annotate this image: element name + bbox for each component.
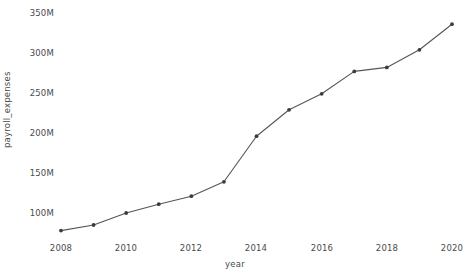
data-point — [320, 92, 324, 96]
y-tick-label-200m: 200M — [16, 128, 54, 138]
data-point — [287, 108, 291, 112]
x-tick-label-2010: 2010 — [115, 243, 137, 253]
y-axis-title: payroll_expenses — [2, 71, 12, 148]
data-point — [418, 48, 422, 52]
y-tick-label-100m: 100M — [16, 208, 54, 218]
y-tick-label-300m: 300M — [16, 48, 54, 58]
data-point — [450, 22, 454, 26]
x-tick-label-2014: 2014 — [245, 243, 267, 253]
y-tick-label-150m: 150M — [16, 168, 54, 178]
data-point — [157, 202, 161, 206]
x-tick-label-2012: 2012 — [180, 243, 202, 253]
data-point — [92, 223, 96, 227]
x-tick-label-2008: 2008 — [50, 243, 72, 253]
data-point — [255, 134, 259, 138]
y-tick-label-250m: 250M — [16, 88, 54, 98]
data-point — [352, 70, 356, 74]
data-point — [59, 229, 63, 233]
data-point — [189, 194, 193, 198]
data-point — [385, 66, 389, 70]
data-line — [61, 24, 452, 230]
line-chart-plot — [0, 0, 470, 274]
data-point — [124, 211, 128, 215]
x-axis-title: year — [225, 259, 245, 269]
data-point-markers — [59, 22, 454, 232]
chart-figure: 350M 300M 250M 200M 150M 100M 2008 2010 … — [0, 0, 470, 274]
data-point — [222, 180, 226, 184]
x-tick-label-2016: 2016 — [311, 243, 333, 253]
x-tick-label-2020: 2020 — [441, 243, 463, 253]
y-tick-label-350m: 350M — [16, 8, 54, 18]
x-tick-label-2018: 2018 — [376, 243, 398, 253]
